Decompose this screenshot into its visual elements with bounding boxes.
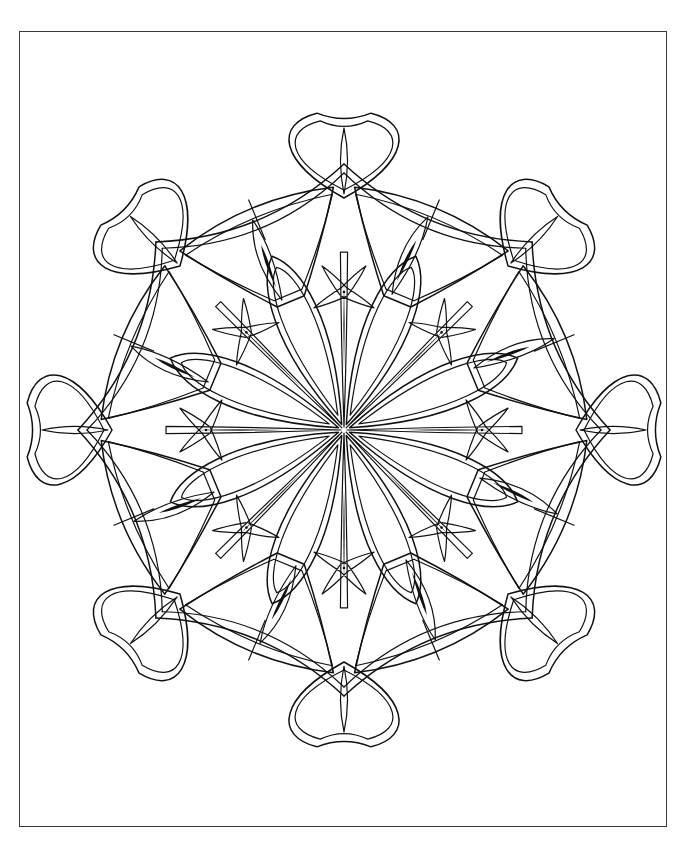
mid-wedge-inner-7 xyxy=(186,194,333,300)
outer-heart-inner-7 xyxy=(102,188,183,269)
outer-heart-vein-0 xyxy=(340,128,347,194)
coloring-page xyxy=(0,0,688,853)
outer-heart-outline-1 xyxy=(500,179,594,273)
mid-wedge-inner-6 xyxy=(108,272,214,419)
outer-heart-vein-6 xyxy=(42,426,108,433)
mid-wedge-inner-2 xyxy=(473,442,579,589)
outer-heart-inner-6 xyxy=(35,381,104,479)
center-spoke-accent-4 xyxy=(343,490,344,580)
center-spoke-accent-6 xyxy=(194,429,284,430)
outer-heart-vein-5 xyxy=(130,597,177,644)
outer-heart-vein-1 xyxy=(511,216,558,263)
center-spoke-accent-0 xyxy=(343,280,344,370)
outer-heart-inner-4 xyxy=(295,670,393,739)
outer-heart-ring xyxy=(27,113,661,747)
mid-wedge-inner-5 xyxy=(108,442,214,589)
outer-heart-inner-3 xyxy=(505,591,586,672)
outer-heart-inner-1 xyxy=(505,188,586,269)
outer-connector-arcs xyxy=(78,164,610,696)
outer-heart-vein-3 xyxy=(511,597,558,644)
mid-wedge-outline-4 xyxy=(180,553,334,673)
mid-wedge-outline-0 xyxy=(355,187,509,307)
mid-wedge-outline-1 xyxy=(467,266,587,420)
outer-heart-vein-2 xyxy=(580,426,646,433)
mid-wedge-inner-4 xyxy=(186,559,333,665)
mandala-drawing xyxy=(0,0,688,853)
outer-heart-vein-4 xyxy=(340,666,347,732)
outer-heart-outline-5 xyxy=(93,586,187,680)
mid-wedge-outline-2 xyxy=(467,441,587,595)
center-star-junction xyxy=(166,252,522,608)
mid-wedge-outline-6 xyxy=(101,266,221,420)
mandala-artboard xyxy=(0,0,688,853)
outer-heart-inner-2 xyxy=(584,381,653,479)
center-spoke-accent-2 xyxy=(404,429,494,430)
mid-wedge-inner-0 xyxy=(356,194,503,300)
mid-wedge-inner-3 xyxy=(356,559,503,665)
mid-wedge-inner-1 xyxy=(473,272,579,419)
outer-heart-inner-0 xyxy=(295,121,393,190)
mid-wedge-outline-7 xyxy=(180,187,334,307)
outer-heart-outline-3 xyxy=(500,586,594,680)
outer-heart-outline-7 xyxy=(93,179,187,273)
outer-heart-vein-7 xyxy=(130,216,177,263)
outer-heart-inner-5 xyxy=(102,591,183,672)
mid-wedge-outline-3 xyxy=(355,553,509,673)
mid-wedge-outline-5 xyxy=(101,441,221,595)
